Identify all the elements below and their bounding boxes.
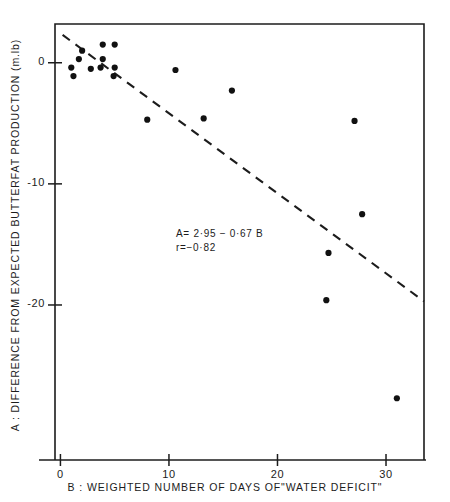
data-point-1 [79,48,85,54]
data-point-12 [144,117,150,123]
equation-text: A= 2·95 − 0·67 B [176,227,263,241]
equation-annotation: A= 2·95 − 0·67 B r=−0·82 [176,227,263,255]
data-point-19 [394,395,400,401]
data-points [68,41,400,401]
data-point-13 [201,115,207,121]
fit-line [63,35,424,301]
regression-line [63,35,424,301]
data-point-4 [88,66,94,72]
axis-ticks [48,63,386,466]
data-point-17 [325,250,331,256]
scatter-plot-figure: A : DIFFERENCE FROM EXPECTED BUTTERFAT P… [0,0,450,502]
x-tick-label-3: 30 [371,468,401,480]
data-point-2 [76,56,82,62]
data-point-8 [97,65,103,71]
y-tick-label-0: 0 [11,55,45,67]
y-tick-label-1: -10 [11,176,45,188]
data-point-15 [351,118,357,124]
x-axis-label: B : WEIGHTED NUMBER OF DAYS OF"WATER DEF… [0,481,450,493]
y-axis-label-container: A : DIFFERENCE FROM EXPECTED BUTTERFAT P… [0,0,30,470]
correlation-text: r=−0·82 [176,241,263,255]
data-point-14 [229,88,235,94]
data-point-6 [112,41,118,47]
x-tick-label-2: 20 [262,468,292,480]
data-point-0 [70,73,76,79]
data-point-11 [172,67,178,73]
data-point-18 [323,297,329,303]
data-point-9 [112,65,118,71]
x-tick-label-1: 10 [154,468,184,480]
data-point-16 [359,211,365,217]
data-point-10 [111,73,117,79]
x-tick-label-0: 0 [45,468,75,480]
y-tick-label-2: -20 [11,297,45,309]
data-point-3 [68,65,74,71]
data-point-5 [100,41,106,47]
y-axis-label: A : DIFFERENCE FROM EXPECTED BUTTERFAT P… [9,39,21,431]
data-point-7 [100,56,106,62]
